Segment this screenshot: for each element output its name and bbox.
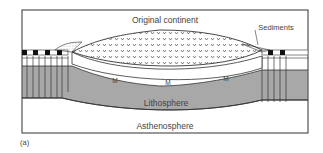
moho-label-1: M [112, 77, 117, 84]
panel-label: (a) [20, 138, 30, 147]
continental-rift-diagram: Original continent Sediments M M M Litho… [0, 0, 323, 153]
lithosphere-label: Lithosphere [144, 98, 189, 108]
sediments-label: Sediments [258, 23, 294, 32]
moho-label-2: M [165, 79, 170, 86]
moho-label-3: M [223, 75, 228, 82]
asthenosphere-label: Asthenosphere [136, 121, 193, 131]
original-continent-label: Original continent [132, 15, 199, 25]
